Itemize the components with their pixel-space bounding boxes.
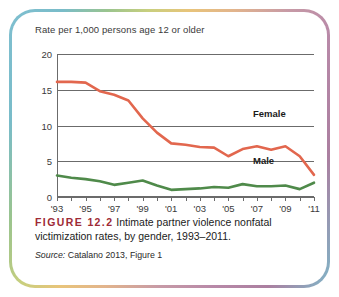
figure-card: Rate per 1,000 persons age 12 or older 0… xyxy=(9,9,330,288)
x-tick-2010 xyxy=(300,197,301,201)
y-axis-label-20: 20 xyxy=(41,49,52,60)
x-tick-2003 xyxy=(200,197,201,201)
series-label-male: Male xyxy=(253,155,274,166)
x-tick-2004 xyxy=(214,197,215,201)
figure-caption-block: FIGURE 12.2 Intimate partner violence no… xyxy=(35,215,307,260)
x-tick-2011 xyxy=(314,197,315,201)
x-axis-label-1993: '93 xyxy=(51,203,63,214)
y-axis-label-5: 5 xyxy=(47,156,52,167)
x-tick-2006 xyxy=(243,197,244,201)
x-tick-2007 xyxy=(257,197,258,201)
x-axis-label-2011: '11 xyxy=(308,203,320,214)
source-label: Source: xyxy=(35,250,65,260)
x-tick-2000 xyxy=(157,197,158,201)
series-label-female: Female xyxy=(253,108,286,119)
line-male xyxy=(57,176,314,190)
x-tick-1993 xyxy=(57,197,58,201)
x-tick-1998 xyxy=(128,197,129,201)
chart-axis-title: Rate per 1,000 persons age 12 or older xyxy=(35,24,205,35)
x-tick-2002 xyxy=(186,197,187,201)
chart-area: Rate per 1,000 persons age 12 or older 0… xyxy=(12,12,327,208)
x-axis-label-2007: '07 xyxy=(251,203,263,214)
figure-source-line: Source: Catalano 2013, Figure 1 xyxy=(35,250,307,260)
x-tick-2009 xyxy=(285,197,286,201)
x-tick-2005 xyxy=(228,197,229,201)
series-lines xyxy=(57,54,314,197)
x-tick-1997 xyxy=(114,197,115,201)
y-axis-label-15: 15 xyxy=(41,84,52,95)
x-axis-label-2001: '01 xyxy=(165,203,177,214)
x-tick-1996 xyxy=(100,197,101,201)
x-tick-1994 xyxy=(71,197,72,201)
y-axis-label-0: 0 xyxy=(47,192,52,203)
figure-number-label: FIGURE 12.2 xyxy=(35,216,113,228)
x-tick-2001 xyxy=(171,197,172,201)
x-axis-label-2003: '03 xyxy=(194,203,206,214)
x-axis-label-1997: '97 xyxy=(108,203,120,214)
source-citation: Catalano 2013, Figure 1 xyxy=(68,250,162,260)
line-female xyxy=(57,82,314,175)
x-tick-2008 xyxy=(271,197,272,201)
x-axis-label-2005: '05 xyxy=(222,203,234,214)
x-tick-1999 xyxy=(143,197,144,201)
figure-caption: FIGURE 12.2 Intimate partner violence no… xyxy=(35,215,307,243)
plot-area: 05101520 '93'95'97'99'01'03'05'07'09'11 … xyxy=(57,54,314,197)
figure-inner: Rate per 1,000 persons age 12 or older 0… xyxy=(12,12,327,285)
x-tick-1995 xyxy=(86,197,87,201)
x-axis-label-1999: '99 xyxy=(136,203,148,214)
y-axis-label-10: 10 xyxy=(41,120,52,131)
x-axis-label-1995: '95 xyxy=(79,203,91,214)
x-axis-label-2009: '09 xyxy=(279,203,291,214)
